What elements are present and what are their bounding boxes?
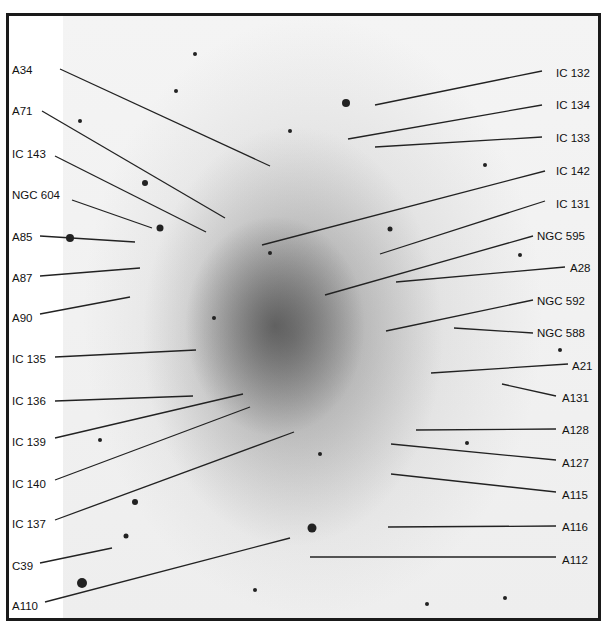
- leader-line: [386, 300, 533, 331]
- bright-star: [342, 99, 350, 107]
- region-label: A116: [562, 521, 588, 533]
- region-label: A28: [570, 262, 590, 274]
- star: [388, 227, 393, 232]
- star: [193, 52, 197, 56]
- bright-star: [308, 524, 317, 533]
- star: [518, 253, 522, 257]
- leader-line: [60, 69, 270, 166]
- annotation-overlay: A34A71IC 143NGC 604A85A87A90IC 135IC 136…: [0, 0, 609, 630]
- leader-line: [375, 137, 542, 147]
- region-label: IC 134: [556, 99, 590, 111]
- star: [425, 602, 429, 606]
- star: [212, 316, 216, 320]
- annotation-a71: A71: [12, 105, 225, 218]
- region-label: A34: [12, 64, 33, 76]
- annotation-a115: A115: [391, 474, 588, 501]
- region-label: A131: [562, 392, 589, 404]
- star: [98, 438, 102, 442]
- annotation-a90: A90: [12, 297, 130, 324]
- star: [483, 163, 487, 167]
- leader-line: [55, 407, 250, 480]
- region-label: NGC 592: [537, 295, 585, 307]
- region-label: A87: [12, 272, 32, 284]
- region-label: IC 142: [556, 165, 590, 177]
- annotation-ic-137: IC 137: [12, 432, 294, 530]
- leader-line: [40, 268, 140, 276]
- annotation-a87: A87: [12, 268, 140, 284]
- annotation-ic-140: IC 140: [12, 407, 250, 490]
- region-label: NGC 588: [537, 327, 585, 339]
- leader-line: [325, 236, 533, 295]
- leader-line: [391, 444, 556, 460]
- star: [503, 596, 507, 600]
- leader-line: [380, 201, 545, 254]
- region-label: IC 143: [12, 148, 46, 160]
- star: [124, 534, 129, 539]
- region-label: IC 139: [12, 436, 46, 448]
- annotation-a110: A110: [12, 538, 290, 612]
- leader-line: [262, 171, 545, 245]
- annotation-a131: A131: [502, 384, 589, 404]
- bright-star: [157, 225, 164, 232]
- leader-line: [416, 429, 556, 430]
- star: [174, 89, 178, 93]
- star: [268, 251, 272, 255]
- leader-line: [55, 432, 294, 520]
- right-labels: IC 132IC 134IC 133IC 142IC 131NGC 595A28…: [262, 67, 592, 566]
- annotation-a21: A21: [431, 360, 592, 373]
- region-label: IC 131: [556, 198, 590, 210]
- region-label: A115: [562, 489, 588, 501]
- leader-line: [375, 71, 542, 105]
- annotation-ic-136: IC 136: [12, 395, 193, 407]
- leader-line: [396, 267, 565, 282]
- leader-line: [40, 297, 130, 314]
- region-label: IC 135: [12, 353, 46, 365]
- region-label: IC 137: [12, 518, 46, 530]
- annotation-a28: A28: [396, 262, 590, 282]
- region-label: A128: [562, 424, 589, 436]
- region-label: A21: [572, 360, 592, 372]
- leader-line: [72, 200, 152, 228]
- region-label: IC 133: [556, 132, 590, 144]
- region-label: A127: [562, 457, 589, 469]
- left-labels: A34A71IC 143NGC 604A85A87A90IC 135IC 136…: [12, 64, 294, 612]
- annotation-a34: A34: [12, 64, 270, 166]
- star: [318, 452, 322, 456]
- annotation-ic-139: IC 139: [12, 394, 243, 448]
- region-label: NGC 604: [12, 189, 61, 201]
- leader-line: [502, 384, 556, 396]
- annotation-a116: A116: [388, 521, 588, 533]
- annotation-ngc-588: NGC 588: [454, 327, 585, 339]
- annotation-a127: A127: [391, 444, 589, 469]
- leader-line: [55, 396, 193, 401]
- bright-star: [142, 180, 148, 186]
- leader-line: [431, 364, 568, 373]
- leader-line: [40, 548, 112, 563]
- annotation-ngc-592: NGC 592: [386, 295, 585, 331]
- annotation-a112: A112: [310, 554, 588, 566]
- annotation-c39: C39: [12, 548, 112, 572]
- region-label: IC 132: [556, 67, 590, 79]
- region-label: A90: [12, 312, 32, 324]
- region-label: C39: [12, 560, 33, 572]
- region-label: NGC 595: [537, 230, 585, 242]
- annotation-ic-133: IC 133: [375, 132, 590, 147]
- star: [253, 588, 257, 592]
- region-label: IC 136: [12, 395, 46, 407]
- leader-line: [55, 350, 196, 357]
- region-label: A112: [562, 554, 588, 566]
- leader-line: [348, 105, 542, 139]
- leader-line: [42, 111, 225, 218]
- star: [78, 119, 82, 123]
- region-label: IC 140: [12, 478, 46, 490]
- annotation-ic-134: IC 134: [348, 99, 590, 139]
- leader-line: [40, 236, 135, 242]
- star: [558, 348, 562, 352]
- leader-line: [45, 538, 290, 602]
- bright-star: [77, 578, 87, 588]
- leader-line: [391, 474, 556, 492]
- annotation-ic-135: IC 135: [12, 350, 196, 365]
- leader-line: [388, 526, 556, 527]
- annotation-a128: A128: [416, 424, 589, 436]
- bright-star: [132, 499, 138, 505]
